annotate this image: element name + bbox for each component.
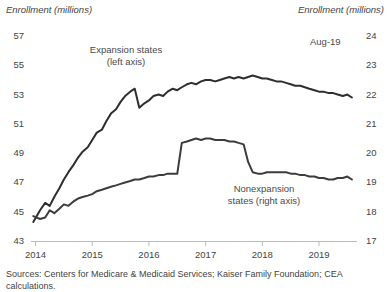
nonexpansion-label-line1: Nonexpansion — [208, 183, 320, 195]
source-note: Sources: Centers for Medicare & Medicaid… — [6, 268, 378, 292]
expansion-label-line1: Expansion states — [78, 44, 174, 56]
series-label-expansion-states: Expansion states (left axis) — [78, 44, 174, 68]
enrollment-line-chart: Enrollment (millions) Enrollment (millio… — [0, 0, 390, 292]
x-axis-ticks — [36, 242, 319, 247]
expansion-label-line2: (left axis) — [78, 56, 174, 68]
series-label-nonexpansion-states: Nonexpansion states (right axis) — [208, 183, 320, 207]
nonexpansion-label-line2: states (right axis) — [208, 195, 320, 207]
annotation-aug-19: Aug-19 — [310, 36, 356, 47]
